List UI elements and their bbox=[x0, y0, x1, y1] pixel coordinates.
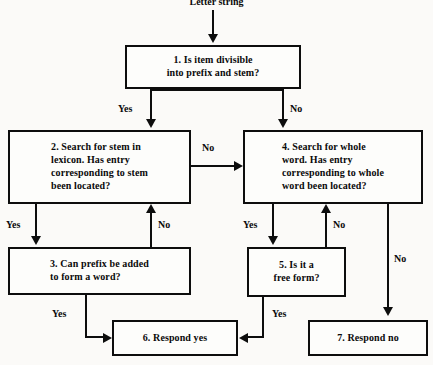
node-box3-label: 3. Can prefix be added to form a word? bbox=[46, 258, 153, 284]
node-box7[interactable]: 7. Respond no bbox=[308, 320, 428, 356]
edge-label-box3-box2: No bbox=[158, 219, 170, 230]
edge-label-box4-box7: No bbox=[394, 253, 406, 264]
edge-box2-box3-arrowhead bbox=[31, 236, 41, 245]
edge-box3-box6-line bbox=[85, 295, 87, 338]
edge-entry-arrowhead bbox=[208, 34, 218, 43]
node-box6-label: 6. Respond yes bbox=[139, 332, 211, 345]
node-box4[interactable]: 4. Search for whole word. Has entry corr… bbox=[243, 130, 423, 204]
edge-label-box5-box4: No bbox=[333, 219, 345, 230]
node-box2-label: 2. Search for stem in lexicon. Has entry… bbox=[47, 141, 152, 192]
edge-box2-box4-arrowhead bbox=[234, 161, 243, 171]
edge-label-box1-box2: Yes bbox=[118, 103, 132, 114]
edge-box2-box3-line bbox=[35, 210, 37, 238]
diagram-caption: Letter string bbox=[0, 0, 433, 7]
node-box3[interactable]: 3. Can prefix be added to form a word? bbox=[8, 247, 191, 295]
edge-box1-box4-line bbox=[282, 89, 284, 121]
edge-label-box2-box4: No bbox=[202, 142, 214, 153]
edge-box4-box7-line bbox=[387, 204, 389, 309]
edge-box1-split-rail bbox=[150, 89, 282, 91]
edge-box5-box6-elbow bbox=[248, 336, 264, 338]
edge-box3-box2-arrowhead bbox=[146, 204, 156, 213]
edge-box4-box5-line bbox=[272, 204, 274, 238]
edge-box5-box6-arrowhead bbox=[239, 333, 248, 343]
node-box6[interactable]: 6. Respond yes bbox=[112, 320, 238, 356]
node-box2[interactable]: 2. Search for stem in lexicon. Has entry… bbox=[8, 130, 191, 204]
node-box7-label: 7. Respond no bbox=[333, 332, 403, 345]
edge-label-box2-box3: Yes bbox=[6, 219, 20, 230]
node-box1-label: 1. Is item divisible into prefix and ste… bbox=[163, 54, 264, 80]
edge-label-box1-box4: No bbox=[290, 103, 302, 114]
edge-box3-box6-arrowhead bbox=[103, 333, 112, 343]
edge-box1-box4-arrowhead bbox=[278, 119, 288, 128]
edge-box5-box4-arrowhead bbox=[321, 204, 331, 213]
edge-box5-box4-line bbox=[325, 213, 327, 247]
edge-label-box5-box6: Yes bbox=[272, 308, 286, 319]
edge-box1-box2-line bbox=[150, 89, 152, 121]
node-box1[interactable]: 1. Is item divisible into prefix and ste… bbox=[125, 45, 301, 89]
edge-box3-box2-line bbox=[150, 213, 152, 247]
edge-box1-box2-arrowhead bbox=[146, 119, 156, 128]
edge-box5-box6-line bbox=[262, 297, 264, 338]
edge-box4-box5-arrowhead bbox=[268, 236, 278, 245]
edge-label-box3-box6: Yes bbox=[52, 308, 66, 319]
edge-entry-line bbox=[212, 10, 214, 37]
edge-box2-box4-line bbox=[191, 165, 235, 167]
node-box5[interactable]: 5. Is it a free form? bbox=[247, 247, 346, 297]
edge-label-box4-box5: Yes bbox=[243, 219, 257, 230]
edge-box4-box7-arrowhead bbox=[383, 307, 393, 316]
flowchart-canvas: Letter string 1. Is item divisible into … bbox=[0, 0, 433, 365]
edge-box3-box6-elbow bbox=[85, 336, 105, 338]
node-box5-label: 5. Is it a free form? bbox=[269, 259, 323, 285]
node-box4-label: 4. Search for whole word. Has entry corr… bbox=[278, 141, 388, 192]
